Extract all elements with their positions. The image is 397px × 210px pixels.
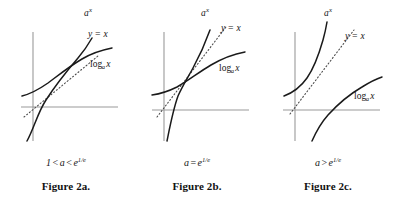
figure-panel-2b: ax y = x loga x a=e1/e Figure 2b. <box>131 0 263 210</box>
caption-2a: Figure 2a. <box>0 180 132 192</box>
condition-2b: a=e1/e <box>131 157 263 168</box>
figure-panel-2c: ax y = x loga x a>e1/e Figure 2c. <box>262 0 394 210</box>
plot-2b <box>131 0 263 152</box>
figure-panel-2a: ax y = x loga x 1<a<e1/e Figure 2a. <box>0 0 132 210</box>
figure-row: ax y = x loga x 1<a<e1/e Figure 2a. ax y… <box>0 0 397 210</box>
plot-area-2a: ax y = x loga x <box>0 0 132 152</box>
logarithm-label-2b: loga x <box>219 64 239 74</box>
caption-2c: Figure 2c. <box>262 180 394 192</box>
exponential-label-2c: ax <box>324 9 332 19</box>
identity-label-2c: y = x <box>345 32 365 42</box>
identity-label-2a: y = x <box>88 30 108 40</box>
logarithm-curve <box>312 77 382 141</box>
plot-area-2c: ax y = x loga x <box>262 0 394 152</box>
exponential-label-2b: ax <box>201 9 209 19</box>
logarithm-label-2a: loga x <box>90 60 110 70</box>
condition-2c: a>e1/e <box>262 157 394 168</box>
plot-area-2b: ax y = x loga x <box>131 0 263 152</box>
plot-2c <box>262 0 394 152</box>
condition-2a: 1<a<e1/e <box>0 157 132 168</box>
caption-2b: Figure 2b. <box>131 180 263 192</box>
plot-2a <box>0 0 132 152</box>
identity-line <box>24 56 98 117</box>
logarithm-label-2c: loga x <box>354 92 374 102</box>
identity-label-2b: y = x <box>221 24 241 34</box>
exponential-curve <box>284 22 327 96</box>
exponential-curve <box>167 30 210 141</box>
exponential-label-2a: ax <box>84 9 92 19</box>
